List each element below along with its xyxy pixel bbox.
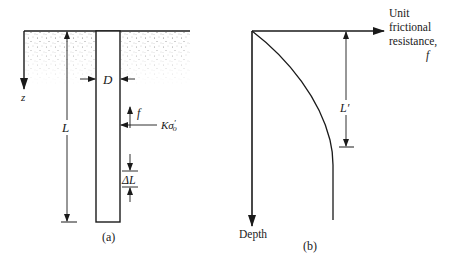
segment-length-label: ΔL (121, 173, 136, 187)
caption-a: (a) (102, 230, 115, 244)
pile-length-label: L (61, 120, 69, 135)
pile (96, 31, 120, 222)
caption-b: (b) (303, 239, 317, 253)
z-axis-label: z (20, 91, 26, 103)
friction-distribution-curve (252, 31, 333, 220)
lateral-stress-label: Kσ′o (160, 118, 177, 133)
friction-axis-label: Unit frictional resistance, f (389, 7, 440, 62)
pile-diameter-label: D (102, 72, 113, 87)
pile-friction-diagram: z L D f Kσ′o (0, 0, 460, 263)
figure-a: z L D f Kσ′o (20, 31, 190, 244)
critical-depth-label: L′ (339, 101, 350, 115)
friction-label: f (137, 106, 142, 120)
figure-b: Unit frictional resistance, f Depth L′ (… (239, 7, 440, 253)
lateral-stress-arrow: Kσ′o (121, 118, 177, 133)
critical-depth-dimension: L′ (339, 32, 354, 147)
depth-axis-label: Depth (239, 228, 267, 241)
segment-length-dimension: ΔL (121, 154, 138, 202)
